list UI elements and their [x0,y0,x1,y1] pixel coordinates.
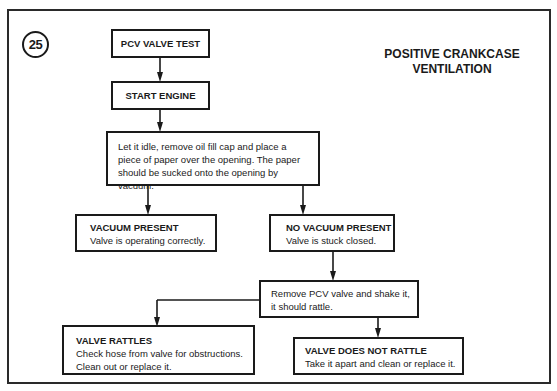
node-label: START ENGINE [125,89,195,102]
node-valve-rattles: VALVE RATTLES Check hose from valve for … [62,325,255,375]
node-text: Take it apart and clean or replace it. [305,357,458,370]
node-heading: VALVE DOES NOT RATTLE [305,344,458,357]
node-text: Check hose from valve for obstructions. … [76,347,247,373]
node-text: Let it idle, remove oil fill cap and pla… [118,140,310,192]
node-heading: VACUUM PRESENT [90,221,215,234]
node-pcv-valve-test: PCV VALVE TEST [111,29,210,58]
node-heading: NO VACUUM PRESENT [286,221,393,234]
node-label: PCV VALVE TEST [121,37,200,50]
node-start-engine: START ENGINE [111,81,210,110]
node-valve-does-not-rattle: VALVE DOES NOT RATTLE Take it apart and … [293,337,464,375]
node-text: Valve is operating correctly. [90,234,215,247]
node-text: Valve is stuck closed. [286,234,393,247]
node-remove-pcv-valve: Remove PCV valve and shake it, it should… [259,280,419,318]
node-heading: VALVE RATTLES [76,334,247,347]
node-let-it-idle: Let it idle, remove oil fill cap and pla… [106,131,320,186]
node-no-vacuum-present: NO VACUUM PRESENT Valve is stuck closed. [269,214,395,252]
node-vacuum-present: VACUUM PRESENT Valve is operating correc… [75,214,217,252]
node-text: Remove PCV valve and shake it, it should… [271,287,411,313]
